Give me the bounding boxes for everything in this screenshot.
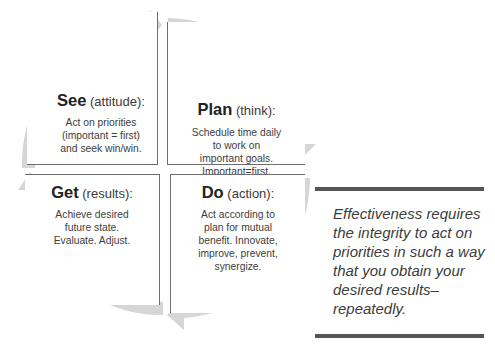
quadrant-do: Do (action): Act according to plan for m… xyxy=(170,174,305,313)
quadrant-heading: See (attitude): xyxy=(41,91,161,110)
quadrant-body: Achieve desired future state. Evaluate. … xyxy=(25,208,159,247)
quadrant-heading: Do (action): xyxy=(171,183,305,202)
quadrant-body: Act according to plan for mutual benefit… xyxy=(171,208,305,273)
quadrant-see: See (attitude): Act on priorities (impor… xyxy=(27,12,158,165)
callout-quote: Effectiveness requires the integrity to … xyxy=(333,204,493,318)
callout-bottom-rule xyxy=(315,334,484,338)
quadrant-body: Schedule time daily to work on important… xyxy=(168,126,305,178)
callout-top-rule xyxy=(315,187,484,191)
quadrant-get: Get (results): Achieve desired future st… xyxy=(25,174,160,305)
quadrant-heading: Plan (think): xyxy=(168,100,305,119)
quadrant-plan: Plan (think): Schedule time daily to wor… xyxy=(167,22,305,165)
quadrant-body: Act on priorities (important = first) an… xyxy=(41,116,161,155)
quadrant-heading: Get (results): xyxy=(25,183,159,202)
